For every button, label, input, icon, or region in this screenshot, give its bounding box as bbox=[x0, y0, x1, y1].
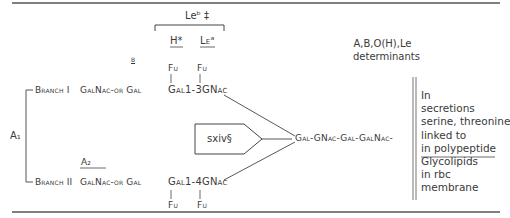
branch1-core: Gal1-3GNac bbox=[168, 84, 228, 96]
note-line: in rbc bbox=[421, 168, 510, 181]
b-marker: B bbox=[131, 56, 135, 63]
a1-label: A₁ bbox=[10, 130, 21, 142]
backbone-chain: Gal-GNac-Gal-GalNac- bbox=[295, 133, 393, 144]
leb-label: Leᵇ ‡ bbox=[185, 10, 209, 22]
a2-label: A₂ bbox=[81, 157, 91, 168]
branch2-label: Branch II bbox=[35, 177, 72, 188]
branch1-fu-right: Fu bbox=[197, 63, 207, 74]
branch2-terminal: GalNac-or Gal bbox=[80, 177, 141, 188]
branch-bracket bbox=[26, 90, 33, 182]
note-line: in polypeptide bbox=[421, 142, 510, 155]
lea-label: Leᵃ bbox=[200, 35, 215, 47]
note-line: secretions bbox=[421, 102, 510, 115]
branch2-fu-left: Fu bbox=[168, 200, 178, 211]
branch2-core: Gal1-4GNac bbox=[168, 176, 228, 188]
note-line: linked to bbox=[421, 129, 510, 142]
note-line: In bbox=[421, 89, 510, 102]
branch1-terminal: GalNac-or Gal bbox=[80, 85, 141, 96]
leb-bracket bbox=[155, 25, 224, 31]
h-antigen-label: H* bbox=[170, 35, 183, 47]
note-line: membrane bbox=[421, 181, 510, 194]
branch1-label: Branch I bbox=[35, 85, 70, 96]
sxiv-label: sxiv§ bbox=[207, 133, 232, 145]
note-line: serine, threonine bbox=[421, 115, 510, 128]
notes-block: In secretions serine, threonine linked t… bbox=[421, 89, 510, 195]
note-line: Glycolipids bbox=[421, 155, 510, 168]
branch2-fu-right: Fu bbox=[197, 200, 207, 211]
branch1-fu-left: Fu bbox=[168, 63, 178, 74]
determinants-label: A,B,O(H),Le determinants bbox=[345, 37, 420, 63]
